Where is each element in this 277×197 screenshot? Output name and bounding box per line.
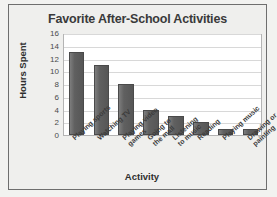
y-tick-label: 6 (55, 94, 59, 102)
y-tick-label: 4 (55, 107, 59, 115)
y-tick-label: 14 (50, 43, 59, 51)
y-tick-label: 12 (50, 56, 59, 64)
x-axis-title: Activity (87, 171, 197, 182)
y-tick-label: 0 (55, 132, 59, 140)
y-tick-label: 16 (50, 30, 59, 38)
y-tick-label: 8 (55, 81, 59, 89)
x-axis-category-labels: Playing sportsWatching TVPlaying video g… (63, 136, 262, 192)
chart-frame: Favorite After-School Activities Hours S… (8, 4, 267, 190)
bar (69, 52, 84, 135)
y-axis-ticks: 0246810121416 (37, 34, 61, 136)
y-tick-label: 2 (55, 119, 59, 127)
chart-figure: Favorite After-School Activities Hours S… (0, 0, 277, 197)
bar (94, 65, 109, 135)
y-axis-title: Hours Spent (17, 36, 28, 106)
chart-title: Favorite After-School Activities (9, 12, 266, 26)
y-tick-label: 10 (50, 68, 59, 76)
